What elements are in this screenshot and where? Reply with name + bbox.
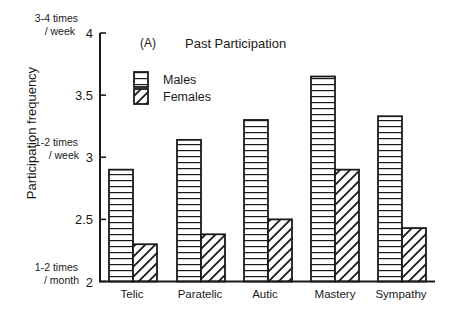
legend: MalesFemales (134, 72, 211, 104)
diagonal-hatch-swatch-icon (134, 89, 148, 104)
x-tick-label: Telic (120, 288, 143, 300)
x-tick-label: Sympathy (375, 288, 426, 300)
y-tick-label: 3.5 (75, 88, 93, 103)
bar-group-sympathy (378, 116, 426, 281)
y-tick-label: 2.5 (75, 212, 93, 227)
y-axis-title: Participation frequency (24, 66, 39, 199)
annotation-line-2: / week (45, 25, 76, 37)
y-tick-label: 3 (86, 150, 93, 165)
bar-group-autic (244, 120, 292, 282)
y-tick-label: 2 (86, 275, 93, 290)
y-tick-annotation: 1-2 times/ month (35, 261, 79, 286)
bar-group-telic (109, 170, 157, 282)
x-axis: TelicParatelicAuticMasterySympathy (99, 282, 435, 301)
y-axis-label: Participation frequency (24, 66, 39, 199)
legend-item-males: Males (134, 72, 196, 87)
bar-females (201, 234, 225, 281)
bar-females (133, 244, 157, 281)
annotation-line-1: 3-4 times (35, 12, 78, 24)
panel-label: (A) (140, 36, 156, 50)
legend-label: Females (163, 90, 211, 104)
legend-item-females: Females (134, 89, 211, 104)
annotation-line-1: 1-2 times (35, 261, 78, 273)
bar-males (378, 116, 402, 281)
y-tick-label: 4 (86, 26, 93, 41)
annotation-line-1: 1-2 times (35, 136, 78, 148)
bar-females (268, 219, 292, 281)
annotation-line-2: / week (49, 149, 80, 161)
x-tick-label: Autic (252, 288, 278, 300)
bar-females (335, 170, 359, 282)
bar-males (109, 170, 133, 282)
legend-label: Males (163, 73, 196, 87)
y-tick-annotation: 1-2 times/ week (35, 136, 80, 161)
horizontal-stripes-swatch-icon (134, 72, 148, 87)
bar-males (311, 76, 335, 281)
bar-group-mastery (311, 76, 359, 281)
bar-group-paratelic (177, 140, 225, 282)
bar-females (402, 228, 426, 281)
chart-title: Past Participation (185, 36, 286, 51)
y-axis: 22.533.543-4 times/ week1-2 times/ week1… (35, 12, 106, 290)
bar-males (177, 140, 201, 282)
y-tick-annotation: 3-4 times/ week (35, 12, 78, 37)
bars (109, 76, 426, 281)
annotation-line-2: / month (44, 274, 79, 286)
bar-chart: Participation frequency 22.533.543-4 tim… (0, 0, 458, 316)
x-tick-label: Mastery (315, 288, 356, 300)
x-tick-label: Paratelic (178, 288, 223, 300)
bar-males (244, 120, 268, 282)
